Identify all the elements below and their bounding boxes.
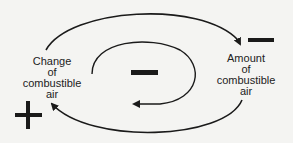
node-change-of-combustible-air: Change of combustible air bbox=[16, 56, 88, 100]
minus-sign-inner-loop bbox=[131, 70, 158, 75]
node-amount-of-combustible-air: Amount of combustible air bbox=[210, 53, 282, 97]
edge-outer-bottom-arrow bbox=[52, 100, 242, 132]
label-line: air bbox=[210, 86, 282, 97]
edge-outer-top-arrow bbox=[46, 14, 240, 50]
label-line: air bbox=[16, 89, 88, 100]
plus-sign-vertical bbox=[26, 101, 30, 129]
minus-sign-top-right bbox=[248, 38, 274, 42]
